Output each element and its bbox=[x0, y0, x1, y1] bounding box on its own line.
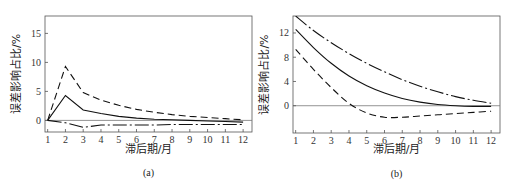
x-tick-label: 3 bbox=[81, 134, 86, 145]
chart-panel-a: 123456789101112051015滞后期/月(a)误差影响占比/% bbox=[9, 16, 252, 179]
y-tick-label: 15 bbox=[31, 28, 41, 39]
y-tick-label: 5 bbox=[36, 86, 41, 97]
x-tick-label: 4 bbox=[98, 134, 103, 145]
x-tick-label: 5 bbox=[364, 135, 369, 146]
series-line-upper-bound bbox=[48, 66, 243, 120]
y-tick-label: 0 bbox=[284, 100, 289, 111]
y-tick-label: 12 bbox=[279, 27, 289, 38]
y-axis-label: 误差影响占比/% bbox=[9, 34, 23, 114]
figure: 123456789101112051015滞后期/月(a)误差影响占比/% 12… bbox=[0, 0, 512, 186]
panel-label: (a) bbox=[143, 167, 154, 179]
series-line-estimate bbox=[296, 29, 491, 106]
x-tick-label: 12 bbox=[238, 134, 248, 145]
x-tick-label: 1 bbox=[45, 134, 50, 145]
plot-frame bbox=[45, 16, 252, 132]
x-axis-label: 滞后期/月 bbox=[125, 143, 173, 156]
x-tick-label: 5 bbox=[116, 134, 121, 145]
x-tick-label: 3 bbox=[329, 135, 334, 146]
y-axis-label: 误差影响占比/% bbox=[257, 34, 271, 114]
x-tick-label: 10 bbox=[203, 134, 213, 145]
chart-panel-b: 12345678910111204812滞后期/月(b)误差影响占比/% bbox=[257, 16, 500, 180]
x-tick-label: 9 bbox=[435, 135, 440, 146]
series-line-upper-bound bbox=[296, 16, 491, 103]
x-tick-label: 10 bbox=[451, 135, 461, 146]
y-tick-label: 0 bbox=[36, 115, 41, 126]
x-tick-label: 12 bbox=[486, 135, 496, 146]
x-tick-label: 1 bbox=[293, 135, 298, 146]
x-tick-label: 11 bbox=[469, 135, 479, 146]
x-tick-label: 2 bbox=[63, 134, 68, 145]
series-line-lower-bound bbox=[296, 49, 491, 117]
x-tick-label: 9 bbox=[187, 134, 192, 145]
y-tick-label: 10 bbox=[31, 57, 41, 68]
y-tick-label: 4 bbox=[284, 76, 289, 87]
plot-frame bbox=[293, 16, 500, 133]
y-tick-label: 8 bbox=[284, 52, 289, 63]
x-tick-label: 4 bbox=[346, 135, 351, 146]
x-axis-label: 滞后期/月 bbox=[373, 143, 421, 156]
x-tick-label: 11 bbox=[221, 134, 231, 145]
panel-label: (b) bbox=[391, 168, 403, 180]
x-tick-label: 2 bbox=[311, 135, 316, 146]
